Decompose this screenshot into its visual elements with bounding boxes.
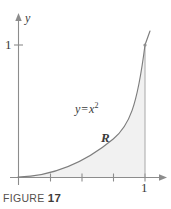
- curve-endpoint-marker: [143, 43, 146, 46]
- equation-exponent: 2: [94, 101, 98, 110]
- figure-container: y 1 1 y=x2 R FIGURE 17: [0, 0, 171, 209]
- x-axis-tick-label-1: 1: [141, 181, 148, 194]
- y-axis-label: y: [25, 12, 30, 24]
- region-label-R: R: [101, 131, 110, 144]
- y-axis-tick-label-1: 1: [5, 38, 12, 51]
- curve-equation-label: y=x2: [75, 103, 98, 115]
- arrow-right-icon: [159, 174, 167, 181]
- arrow-up-icon: [15, 13, 21, 21]
- figure-caption-number: 17: [48, 192, 61, 204]
- figure-caption: FIGURE 17: [3, 192, 61, 204]
- figure-caption-prefix: FIGURE: [3, 192, 44, 204]
- equation-operator: =: [80, 102, 89, 116]
